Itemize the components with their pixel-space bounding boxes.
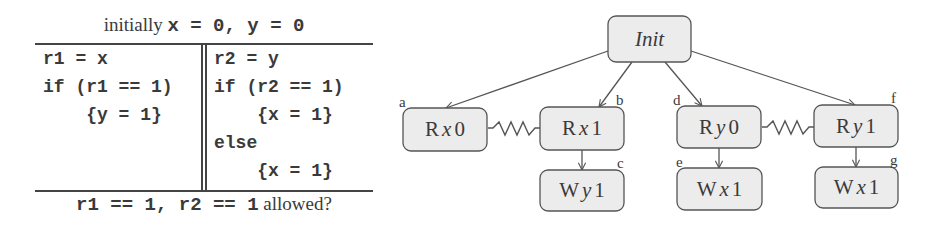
edge-init-to-f — [691, 51, 855, 105]
node-tag: e — [676, 154, 683, 170]
edges — [446, 51, 856, 170]
node-label: Init — [634, 27, 665, 51]
zigzag-d-f — [762, 121, 814, 134]
node-f: Ry1 f — [814, 90, 898, 147]
node-label: Ry1 — [836, 114, 876, 138]
node-tag: b — [616, 92, 624, 108]
node-init: Init — [608, 16, 691, 62]
node-tag: a — [399, 94, 406, 110]
node-label: Rx1 — [562, 116, 602, 140]
node-label: Wy1 — [559, 178, 605, 202]
node-tag: d — [673, 92, 681, 108]
node-label: Wx1 — [834, 175, 880, 199]
node-label: Wx1 — [697, 177, 743, 201]
edge-init-to-d — [665, 62, 702, 106]
execution-tree: Init Rx0 a Rx1 b Wy1 c Ry0 d Wx — [0, 0, 932, 231]
node-a: Rx0 a — [399, 94, 487, 151]
node-label: Ry0 — [699, 115, 739, 139]
nodes: Init Rx0 a Rx1 b Wy1 c Ry0 d Wx — [399, 16, 898, 211]
zigzag-a-b — [488, 122, 540, 135]
edge-init-to-a — [446, 51, 608, 108]
node-tag: c — [617, 155, 624, 171]
node-b: Rx1 b — [540, 92, 624, 150]
conflict-edges — [488, 121, 814, 135]
node-tag: g — [890, 152, 898, 168]
node-label: Rx0 — [425, 117, 465, 141]
node-d: Ry0 d — [673, 92, 761, 148]
node-tag: f — [891, 90, 896, 106]
